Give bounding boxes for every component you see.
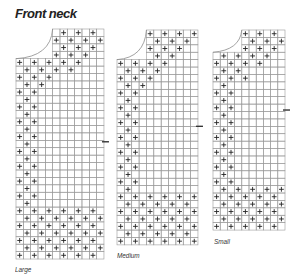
- knitting-charts: [0, 0, 299, 279]
- size-label-medium: Medium: [117, 251, 140, 260]
- size-label-small: Small: [214, 237, 230, 246]
- chart-large: [16, 29, 109, 259]
- chart-small: [213, 30, 290, 230]
- chart-medium: [117, 30, 203, 245]
- size-label-large: Large: [15, 265, 31, 274]
